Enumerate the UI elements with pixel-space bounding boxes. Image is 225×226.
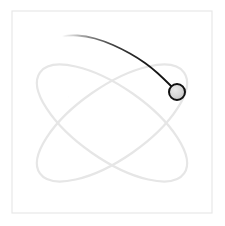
stage-background [0,0,225,226]
simulation-canvas: Orbit Trail Simulation [0,0,225,226]
orbiting-body-marker[interactable] [169,84,185,100]
simulation-stage: Orbit Trail Simulation [0,0,225,226]
orbiting-body[interactable] [169,84,185,100]
